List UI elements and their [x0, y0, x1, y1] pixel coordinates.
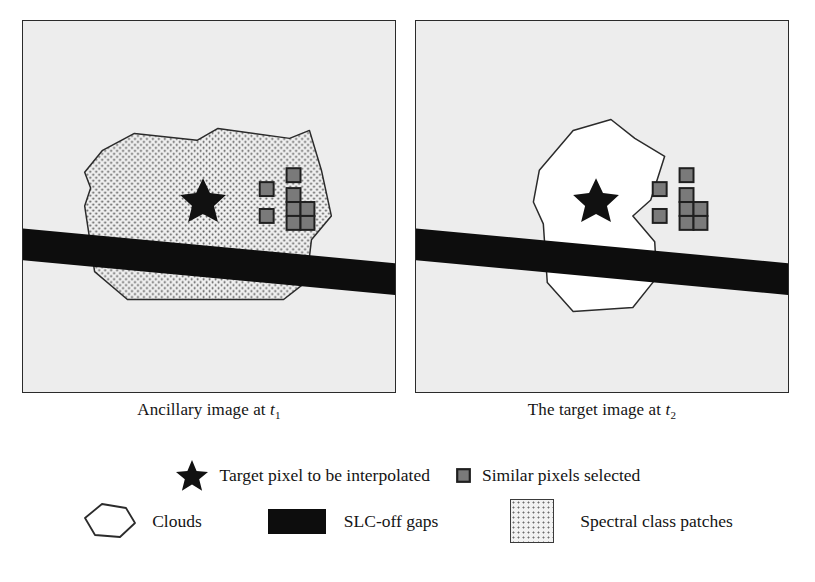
caption-ancillary-text: Ancillary image at: [137, 400, 270, 419]
star-icon: [175, 459, 209, 492]
legend-item-clouds: Clouds: [82, 501, 202, 541]
caption-ancillary-sub: 1: [275, 409, 281, 421]
legend-item-spectral-class-patches: Spectral class patches: [510, 499, 733, 543]
figure-root: Ancillary image at t1 The target image a…: [0, 0, 815, 582]
caption-target: The target image at t2: [415, 400, 789, 421]
stipple-square-icon: [510, 499, 554, 543]
ancillary-panel-graphic: [23, 21, 395, 392]
panel-target-image: [415, 20, 789, 393]
caption-target-var: t: [665, 400, 670, 419]
legend-row-secondary: Clouds SLC-off gaps Spectral class patch…: [0, 495, 815, 547]
black-band-icon: [268, 509, 326, 534]
legend-item-target-pixel: Target pixel to be interpolated: [175, 459, 430, 492]
legend-label-spectral-class-patches: Spectral class patches: [580, 511, 733, 532]
target-panel-graphic: [416, 21, 788, 392]
legend-row-primary: Target pixel to be interpolated Similar …: [0, 455, 815, 495]
legend-label-clouds: Clouds: [152, 511, 202, 532]
legend-label-similar-pixels: Similar pixels selected: [482, 465, 640, 486]
square-icon: [456, 468, 471, 483]
legend-label-slc-off-gaps: SLC-off gaps: [344, 511, 438, 532]
pentagon-outline-icon: [82, 501, 138, 541]
legend-item-slc-off-gaps: SLC-off gaps: [268, 509, 438, 534]
caption-target-sub: 2: [671, 409, 677, 421]
caption-target-text: The target image at: [528, 400, 666, 419]
legend-item-similar-pixels: Similar pixels selected: [456, 465, 640, 486]
panel-ancillary-image: [22, 20, 396, 393]
caption-ancillary: Ancillary image at t1: [22, 400, 396, 421]
legend-label-target-pixel: Target pixel to be interpolated: [220, 465, 430, 486]
legend: Target pixel to be interpolated Similar …: [0, 455, 815, 547]
